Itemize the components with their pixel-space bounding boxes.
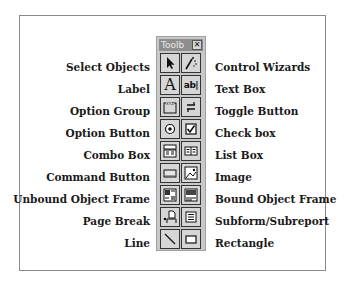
label-bound-object-frame: Bound Object Frame	[215, 193, 336, 206]
label-button[interactable]: A	[160, 75, 180, 95]
label-icon: A	[164, 77, 176, 93]
label-toggle-button: Toggle Button	[215, 105, 298, 118]
text-box-button[interactable]: ab|	[181, 75, 201, 95]
label-line: Line	[124, 237, 150, 250]
bound-object-frame-button[interactable]	[181, 185, 201, 205]
label-subform-subreport: Subform/Subreport	[215, 215, 329, 228]
line-button[interactable]	[160, 229, 180, 249]
unbound-object-frame-icon	[162, 187, 178, 203]
unbound-object-frame-button[interactable]	[160, 185, 180, 205]
text-box-icon: ab|	[184, 80, 198, 90]
rectangle-button[interactable]	[181, 229, 201, 249]
line-icon	[162, 231, 178, 247]
option-group-button[interactable]: XYZ	[160, 97, 180, 117]
select-objects-icon	[162, 55, 178, 71]
rectangle-icon	[183, 231, 199, 247]
list-box-icon	[183, 143, 199, 159]
command-button-icon	[162, 165, 178, 181]
label-text-box: Text Box	[215, 83, 265, 96]
label-option-button: Option Button	[66, 127, 150, 140]
label-option-group: Option Group	[70, 105, 150, 118]
label-label: Label	[118, 83, 150, 96]
image-icon	[183, 165, 199, 181]
control-wizards-icon	[183, 55, 199, 71]
toggle-button-icon	[183, 99, 199, 115]
command-button-button[interactable]	[160, 163, 180, 183]
select-objects-button[interactable]	[160, 53, 180, 73]
option-button-icon	[162, 121, 178, 137]
toolbox-title: Toolb	[161, 39, 184, 51]
combo-box-button[interactable]	[160, 141, 180, 161]
label-combo-box: Combo Box	[83, 149, 150, 162]
control-wizards-button[interactable]	[181, 53, 201, 73]
toolbox-window: Toolb ✕ A ab| XYZ	[156, 36, 206, 251]
close-button[interactable]: ✕	[192, 40, 202, 50]
check-box-icon	[183, 121, 199, 137]
bound-object-frame-icon	[183, 187, 199, 203]
label-rectangle: Rectangle	[215, 237, 274, 250]
option-group-icon: XYZ	[162, 99, 178, 115]
subform-subreport-icon	[183, 209, 199, 225]
label-check-box: Check box	[215, 127, 276, 140]
list-box-button[interactable]	[181, 141, 201, 161]
page-break-button[interactable]	[160, 207, 180, 227]
toolbox-titlebar[interactable]: Toolb ✕	[159, 39, 203, 51]
option-button-button[interactable]	[160, 119, 180, 139]
check-box-button[interactable]	[181, 119, 201, 139]
label-page-break: Page Break	[83, 215, 150, 228]
image-button[interactable]	[181, 163, 201, 183]
label-select-objects: Select Objects	[66, 61, 150, 74]
subform-subreport-button[interactable]	[181, 207, 201, 227]
label-control-wizards: Control Wizards	[215, 61, 310, 74]
page-break-icon	[162, 209, 178, 225]
svg-text:XYZ: XYZ	[166, 101, 174, 106]
label-image: Image	[215, 171, 252, 184]
label-command-button: Command Button	[46, 171, 150, 184]
label-list-box: List Box	[215, 149, 263, 162]
combo-box-icon	[162, 143, 178, 159]
close-icon: ✕	[194, 40, 201, 49]
label-unbound-object-frame: Unbound Object Frame	[13, 193, 150, 206]
toggle-button-button[interactable]	[181, 97, 201, 117]
